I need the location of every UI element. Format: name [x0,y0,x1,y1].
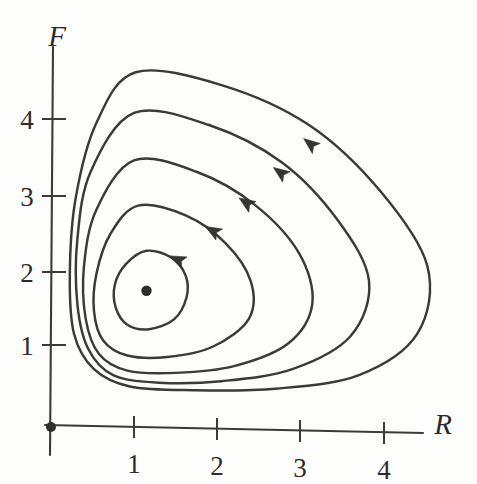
y-tick-labels: 4 3 2 1 [20,105,34,361]
x-tick-label-3: 3 [293,453,307,483]
arrow-head-glyph [300,134,320,154]
y-tick-label-2: 2 [20,258,34,288]
y-tick-label-4: 4 [20,105,34,135]
equilibrium-points-group [46,286,152,432]
flow-arrow-5 [300,134,320,154]
x-tick-label-2: 2 [210,451,224,481]
y-tick-label-1: 1 [20,331,34,361]
orbit-curves-group [70,70,430,390]
orbit-curve-2 [94,205,254,358]
arrow-head-glyph [167,250,187,268]
arrow-head-glyph [235,193,255,213]
y-axis-line [50,47,53,455]
x-tick-labels: 1 2 3 4 [127,449,391,484]
x-tick-label-1: 1 [127,449,141,479]
y-axis-label: F [47,20,66,52]
y-tick-label-3: 3 [20,182,34,212]
y-axis-ticks [42,119,66,345]
x-tick-label-4: 4 [377,455,391,484]
flow-arrow-3 [235,193,255,213]
x-axis-line [45,425,423,433]
phase-portrait-canvas: 4 3 2 1 1 2 3 4 F R [0,0,477,484]
equilibrium-dot-center [141,286,151,296]
phase-portrait-figure: 4 3 2 1 1 2 3 4 F R [0,0,477,484]
orbit-curve-3 [83,158,313,373]
x-axis-label: R [433,408,452,440]
flow-arrow-1 [167,250,187,268]
equilibrium-dot-origin [46,422,56,432]
